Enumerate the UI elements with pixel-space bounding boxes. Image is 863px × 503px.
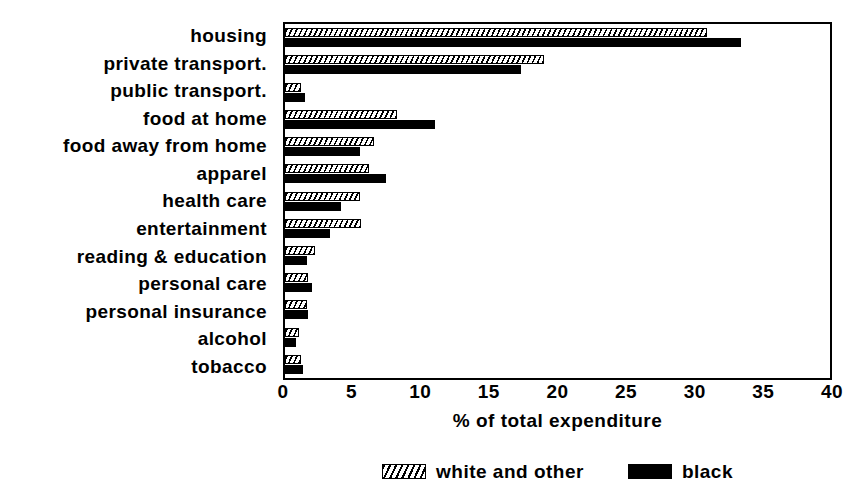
category-label: health care	[0, 187, 275, 215]
x-axis-title: % of total expenditure	[283, 410, 832, 432]
bar-group	[285, 296, 830, 323]
x-tick-label: 40	[821, 382, 843, 401]
x-tick-label: 35	[752, 382, 774, 401]
legend-label: black	[682, 462, 733, 481]
bar-black	[285, 38, 741, 47]
bar-group	[285, 215, 830, 242]
legend-label: white and other	[436, 462, 584, 481]
expenditure-bar-chart: housingprivate transport.public transpor…	[0, 0, 863, 503]
category-label: entertainment	[0, 215, 275, 243]
x-tick-label: 15	[478, 382, 500, 401]
bar-black	[285, 283, 312, 292]
category-label: tobacco	[0, 352, 275, 380]
bar-white-and-other	[285, 110, 397, 119]
bar-black	[285, 147, 360, 156]
bar-group	[285, 106, 830, 133]
bars-area	[285, 24, 830, 378]
bar-group	[285, 24, 830, 51]
bar-group	[285, 351, 830, 378]
category-label: reading & education	[0, 242, 275, 270]
bar-group	[285, 51, 830, 78]
bar-white-and-other	[285, 355, 301, 364]
legend-entry: white and other	[382, 462, 584, 481]
category-label: personal care	[0, 270, 275, 298]
bar-white-and-other	[285, 300, 307, 309]
bar-white-and-other	[285, 219, 361, 228]
bar-white-and-other	[285, 83, 301, 92]
bar-group	[285, 269, 830, 296]
hatched-swatch	[382, 464, 426, 479]
x-axis-tick-labels: 0510152025303540	[283, 382, 832, 408]
bar-black	[285, 310, 308, 319]
category-label: alcohol	[0, 325, 275, 353]
category-label: food at home	[0, 105, 275, 133]
category-label: housing	[0, 22, 275, 50]
x-tick-label: 0	[277, 382, 288, 401]
bar-group	[285, 242, 830, 269]
bar-black	[285, 65, 521, 74]
bar-group	[285, 133, 830, 160]
x-tick-label: 20	[546, 382, 568, 401]
bar-black	[285, 229, 330, 238]
legend-entry: black	[628, 462, 733, 481]
bar-white-and-other	[285, 192, 360, 201]
bar-black	[285, 202, 341, 211]
category-label: personal insurance	[0, 297, 275, 325]
bar-white-and-other	[285, 328, 299, 337]
bar-group	[285, 187, 830, 214]
x-tick-label: 5	[346, 382, 357, 401]
bar-black	[285, 120, 435, 129]
category-label: food away from home	[0, 132, 275, 160]
bar-white-and-other	[285, 28, 707, 37]
bar-white-and-other	[285, 137, 374, 146]
bar-group	[285, 324, 830, 351]
bar-black	[285, 365, 303, 374]
category-label: private transport.	[0, 50, 275, 78]
category-label: apparel	[0, 160, 275, 188]
bar-white-and-other	[285, 55, 544, 64]
bar-white-and-other	[285, 164, 369, 173]
x-tick-label: 10	[409, 382, 431, 401]
bar-group	[285, 160, 830, 187]
bar-group	[285, 78, 830, 105]
bar-black	[285, 338, 296, 347]
bar-white-and-other	[285, 246, 315, 255]
plot-frame	[283, 22, 832, 380]
solid-black-swatch	[628, 464, 672, 479]
bar-black	[285, 93, 305, 102]
bar-black	[285, 174, 386, 183]
chart-legend: white and otherblack	[283, 462, 832, 481]
x-tick-label: 25	[615, 382, 637, 401]
category-label: public transport.	[0, 77, 275, 105]
category-label-column: housingprivate transport.public transpor…	[0, 22, 275, 380]
x-tick-label: 30	[684, 382, 706, 401]
bar-white-and-other	[285, 273, 308, 282]
bar-black	[285, 256, 307, 265]
